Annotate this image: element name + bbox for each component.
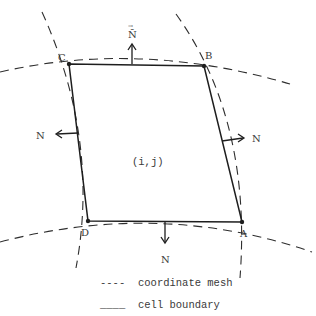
vertex-label-a: A [239,228,248,239]
coordinate-mesh [0,12,312,278]
legend: ---- coordinate mesh ____ cell boundary [99,277,233,311]
normal-vector-marker: → [128,22,133,29]
cell-boundary [69,64,242,222]
vertex-b-dot [202,64,206,68]
normal-label-left: N [36,130,45,141]
mesh-line-top [0,59,290,84]
normal-arrow-bottom [161,222,169,243]
normal-label-right: N [252,133,261,144]
legend-mesh-text: coordinate mesh [138,277,233,289]
mesh-line-bottom [0,223,312,252]
legend-mesh-symbol: ---- [100,277,125,289]
normal-label-top: N̄ [128,29,137,40]
vertices [67,62,244,224]
vertex-label-b: B [205,50,212,61]
legend-cell-symbol: ____ [99,299,126,311]
cell-index-label: (i,j) [132,156,164,168]
vertex-c-dot [67,62,71,66]
normal-arrow-top [128,44,136,64]
vertex-label-c: C [58,52,66,63]
vertex-a-dot [240,220,244,224]
legend-cell-text: cell boundary [138,299,220,311]
normal-label-bottom: N [161,254,170,265]
cell-diagram: C B A D N̄ → N N N (i,j) ---- coordinate… [0,0,316,316]
vertex-label-d: D [81,227,89,238]
normal-arrow-left [56,130,78,138]
vertex-d-dot [86,219,90,223]
normal-arrow-right [222,134,244,142]
